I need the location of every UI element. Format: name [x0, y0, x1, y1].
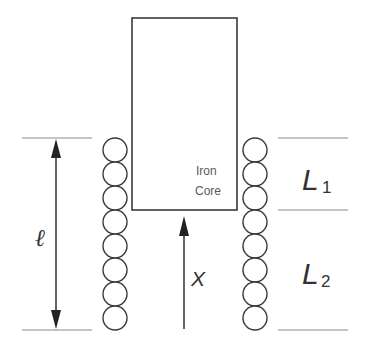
coil-turn [103, 186, 127, 210]
coil-turn [243, 258, 267, 282]
left-coil-winding [103, 138, 127, 330]
inductance-l1-label: L [302, 163, 319, 196]
coil-turn [103, 258, 127, 282]
coil-turn [103, 162, 127, 186]
coil-turn [243, 210, 267, 234]
iron-core-label-line1: Iron [196, 164, 217, 178]
coil-turn [103, 210, 127, 234]
inductance-l2-label: L [302, 257, 319, 290]
arrow-up-icon [51, 139, 61, 158]
coil-turn [243, 186, 267, 210]
coil-turn [103, 282, 127, 306]
coil-turn [243, 306, 267, 330]
coil-turn [103, 138, 127, 162]
coil-turn [103, 306, 127, 330]
coil-turn [243, 282, 267, 306]
coil-turn [243, 162, 267, 186]
right-coil-winding [243, 138, 267, 330]
displacement-label: X [190, 267, 206, 290]
length-label: ℓ [35, 224, 45, 252]
inductance-l1-subscript: 1 [322, 178, 331, 197]
arrow-up-icon [179, 216, 189, 236]
iron-core-label-line2: Core [195, 184, 221, 198]
coil-turn [243, 234, 267, 258]
inductor-diagram: Iron Core ℓ X L 1 L 2 [0, 0, 365, 355]
iron-core [132, 18, 237, 210]
inductance-l2-subscript: 2 [321, 272, 330, 291]
coil-turn [243, 138, 267, 162]
coil-turn [103, 234, 127, 258]
arrow-down-icon [51, 310, 61, 329]
